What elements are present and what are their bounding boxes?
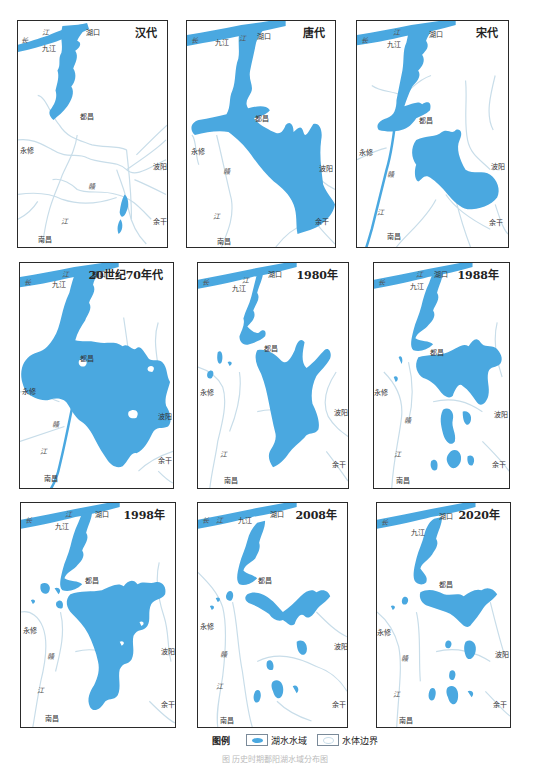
map-panel-1970s: 20世纪70年代 长 江 九江 湖口 都昌 永修 赣 江 南昌 波阳 余干 — [19, 262, 174, 489]
place-label-jiujiang: 九江 — [232, 283, 246, 293]
era-label: 1980年 — [296, 266, 338, 282]
place-label-gan-jiang: 江 — [40, 446, 47, 456]
place-label-yongxiu: 永修 — [191, 146, 205, 156]
lake-water-swatch-icon — [246, 734, 268, 746]
place-label-chang: 长 — [191, 35, 198, 45]
place-label-duchang: 都昌 — [80, 111, 94, 121]
place-label-yugan: 余干 — [332, 699, 346, 709]
place-label-yugan: 余干 — [161, 699, 175, 709]
place-label-jiujiang: 九江 — [55, 521, 69, 531]
place-label-nanchang: 南昌 — [224, 475, 238, 485]
place-label-yongxiu: 永修 — [20, 145, 34, 155]
map-panel-1988: 1988年 长 江 九江 湖口 都昌 永修 赣 江 南昌 波阳 余干 — [373, 262, 510, 489]
place-label-yugan: 余干 — [153, 216, 167, 226]
map-panel-1980: 1980年 长 江 九江 湖口 都昌 永修 江 南昌 波阳 余干 — [197, 262, 349, 489]
place-label-nanchang: 南昌 — [220, 715, 234, 725]
place-label-hukou: 湖口 — [434, 269, 448, 279]
place-label-boyang: 波阳 — [334, 407, 348, 417]
place-label-jiujiang: 九江 — [215, 37, 229, 47]
map-panel-1998: 1998年 长 江 九江 湖口 都昌 永修 赣 江 南昌 波阳 余干 — [20, 502, 176, 728]
place-label-jiujiang: 九江 — [411, 527, 425, 537]
water-boundary-swatch-icon — [317, 734, 339, 746]
place-label-hukou: 湖口 — [95, 509, 109, 519]
place-label-duchang: 都昌 — [85, 575, 99, 585]
legend-item-lake-water: 湖水水域 — [246, 734, 307, 747]
place-label-jiang: 江 — [62, 269, 69, 279]
legend-label: 湖水水域 — [271, 734, 307, 747]
place-label-yongxiu: 永修 — [374, 387, 388, 397]
place-label-gan: 赣 — [387, 169, 394, 179]
place-label-nanchang: 南昌 — [38, 234, 52, 244]
place-label-chang: 长 — [202, 515, 209, 525]
place-label-nanchang: 南昌 — [217, 236, 231, 246]
place-label-yongxiu: 永修 — [200, 621, 214, 631]
place-label-hukou: 湖口 — [429, 29, 443, 39]
place-label-gan: 赣 — [401, 653, 408, 663]
place-label-nanchang: 南昌 — [396, 475, 410, 485]
place-label-gan: 赣 — [220, 649, 227, 659]
era-label: 宋代 — [476, 24, 498, 40]
map-legend: 图例 湖水水域 水体边界 — [212, 733, 388, 747]
place-label-yongxiu: 永修 — [359, 147, 373, 157]
place-label-boyang: 波阳 — [153, 161, 167, 171]
lake-map-2008 — [198, 503, 347, 727]
era-label: 1998年 — [123, 506, 165, 522]
place-label-duchang: 都昌 — [255, 113, 269, 123]
place-label-nanchang: 南昌 — [387, 231, 401, 241]
era-label: 2008年 — [295, 506, 337, 522]
place-label-boyang: 波阳 — [495, 649, 509, 659]
place-label-jiujiang: 九江 — [238, 515, 252, 525]
era-label: 1988年 — [457, 266, 499, 282]
place-label-gan-jiang: 江 — [220, 449, 227, 459]
place-label-chang: 长 — [202, 277, 209, 287]
place-label-chang: 长 — [378, 277, 385, 287]
place-label-hukou: 湖口 — [270, 509, 284, 519]
place-label-boyang: 波阳 — [334, 641, 348, 651]
place-label-chang: 长 — [381, 517, 388, 527]
place-label-hukou: 湖口 — [86, 27, 100, 37]
figure-caption: 图 历史时期鄱阳湖水域分布图 — [0, 753, 550, 764]
era-label: 汉代 — [135, 24, 157, 40]
place-label-hukou: 湖口 — [439, 511, 453, 521]
map-panel-song: 宋代 长 江 九江 湖口 都昌 永修 赣 江 南昌 波阳 余干 — [356, 20, 509, 248]
place-label-yugan: 余干 — [315, 216, 329, 226]
place-label-duchang: 都昌 — [80, 353, 94, 363]
place-label-jiang: 江 — [416, 269, 423, 279]
place-label-yongxiu: 永修 — [22, 386, 36, 396]
place-label-jiujiang: 九江 — [387, 39, 401, 49]
place-label-chang: 长 — [24, 277, 31, 287]
place-label-yongxiu: 永修 — [23, 625, 37, 635]
place-label-nanchang: 南昌 — [399, 715, 413, 725]
legend-label: 水体边界 — [342, 734, 378, 747]
place-label-yugan: 余干 — [158, 455, 172, 465]
place-label-duchang: 都昌 — [439, 579, 453, 589]
place-label-gan-jiang: 江 — [61, 216, 68, 226]
place-label-hukou: 湖口 — [268, 269, 282, 279]
place-label-gan-jiang: 江 — [37, 685, 44, 695]
place-label-boyang: 波阳 — [161, 646, 175, 656]
place-label-gan-jiang: 江 — [393, 689, 400, 699]
place-label-gan-jiang: 江 — [394, 449, 401, 459]
place-label-duchang: 都昌 — [264, 343, 278, 353]
place-label-gan-jiang: 江 — [377, 207, 384, 217]
place-label-chang: 长 — [21, 35, 28, 45]
place-label-duchang: 都昌 — [258, 575, 272, 585]
era-label: 唐代 — [303, 24, 325, 40]
place-label-chang: 长 — [25, 515, 32, 525]
place-label-yugan: 余干 — [489, 217, 503, 227]
place-label-boyang: 波阳 — [494, 409, 508, 419]
place-label-duchang: 都昌 — [419, 115, 433, 125]
place-label-hukou: 湖口 — [92, 269, 106, 279]
place-label-jiang: 江 — [65, 509, 72, 519]
map-panel-2020: 2020年 长 九江 湖口 都昌 永修 赣 江 南昌 波阳 余干 — [376, 502, 511, 728]
lake-map-tang — [187, 21, 335, 247]
place-label-boyang: 波阳 — [319, 163, 333, 173]
era-label: 2020年 — [458, 506, 500, 522]
map-panel-tang: 唐代 长 九江 江 湖口 都昌 永修 赣 江 南昌 波阳 余干 — [186, 20, 336, 248]
place-label-gan-jiang: 江 — [213, 211, 220, 221]
place-label-yongxiu: 永修 — [200, 387, 214, 397]
place-label-hukou: 湖口 — [257, 31, 271, 41]
place-label-duchang: 都昌 — [430, 347, 444, 357]
place-label-jiujiang: 九江 — [410, 281, 424, 291]
lake-map-1998 — [21, 503, 175, 727]
